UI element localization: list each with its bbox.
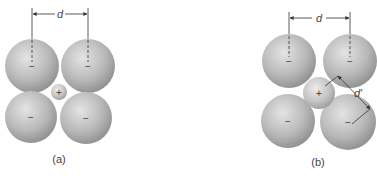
ionic-radius-diagram: d − − − − + (a) d − − − − + <box>0 0 377 182</box>
anion-charge: − <box>83 113 89 124</box>
panel-a: d − − − − + (a) <box>5 8 115 165</box>
cation-charge: + <box>56 87 62 98</box>
anion-charge: − <box>85 61 91 72</box>
anion-charge: − <box>285 116 291 127</box>
anion-charge: − <box>29 61 35 72</box>
caption-b: (b) <box>311 156 324 168</box>
anion-charge: − <box>345 117 351 128</box>
anion-charge: − <box>286 56 292 67</box>
dimension-label-d: d <box>57 8 64 20</box>
panel-b: d − − − − + d′ (b) <box>261 12 377 168</box>
caption-a: (a) <box>52 153 65 165</box>
dimension-label-d: d <box>316 12 323 24</box>
anion-charge: − <box>28 112 34 123</box>
contact-label-d-prime: d′ <box>354 87 363 99</box>
anion-charge: − <box>347 56 353 67</box>
cation-charge: + <box>316 88 322 99</box>
